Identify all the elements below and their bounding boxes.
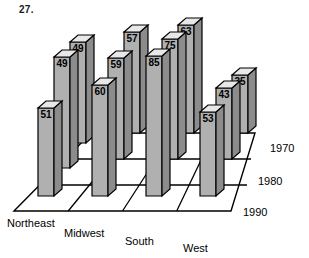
year-label-1970: 1970	[270, 142, 294, 154]
bar-value-label: 53	[203, 113, 215, 124]
bar-value-label: 60	[95, 86, 107, 97]
bar-front-face	[200, 112, 216, 196]
year-axis-labels: 1970 1980 1990	[243, 142, 294, 218]
bar-side-face	[178, 32, 186, 159]
bar-side-face	[248, 68, 256, 133]
bar-side-face	[108, 78, 116, 196]
bar-front-face	[92, 85, 108, 196]
bar-side-face	[216, 105, 224, 196]
bar-value-label: 85	[149, 57, 161, 68]
bar-northeast-1990[interactable]: 51	[38, 101, 62, 196]
category-label-west: West	[183, 242, 208, 254]
bar-side-face	[54, 101, 62, 196]
bar-value-label: 51	[41, 109, 53, 120]
bar-side-face	[70, 50, 78, 168]
bar-midwest-1990[interactable]: 60	[92, 78, 116, 196]
year-label-1990: 1990	[243, 206, 267, 218]
category-label-midwest: Midwest	[64, 227, 104, 239]
bar-value-label: 59	[111, 59, 123, 70]
bar-side-face	[124, 51, 132, 159]
category-label-south: South	[125, 235, 154, 247]
category-label-northeast: Northeast	[7, 217, 55, 229]
bar-west-1990[interactable]: 53	[200, 105, 224, 196]
bar-side-face	[232, 81, 240, 159]
figure-container: 27. 49 57	[0, 0, 309, 258]
category-axis-labels: Northeast Midwest South West	[7, 217, 208, 254]
bar-front-face	[146, 56, 162, 196]
bar-front-face	[38, 108, 54, 196]
bar-value-label: 57	[127, 33, 139, 44]
year-label-1980: 1980	[258, 175, 282, 187]
bar-chart-3d: 49 57 63 35 49	[0, 0, 309, 258]
bar-value-label: 49	[57, 58, 69, 69]
bar-south-1990[interactable]: 85	[146, 49, 170, 196]
bar-side-face	[162, 49, 170, 196]
bar-value-label: 43	[219, 89, 231, 100]
